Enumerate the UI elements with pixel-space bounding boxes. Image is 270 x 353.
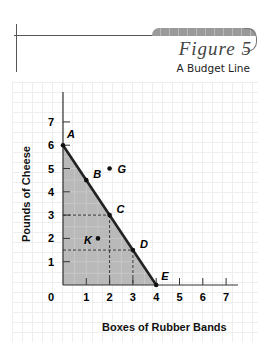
y-tick-label: 4 bbox=[48, 186, 55, 198]
point-A bbox=[61, 143, 66, 148]
y-axis-label: Pounds of Cheese bbox=[20, 146, 32, 242]
y-tick-label: 7 bbox=[48, 116, 54, 128]
point-label-A: A bbox=[66, 128, 75, 140]
point-E bbox=[154, 283, 159, 288]
x-tick-label: 4 bbox=[153, 291, 160, 303]
point-label-E: E bbox=[161, 270, 169, 282]
point-D bbox=[131, 248, 136, 253]
y-tick-label: 3 bbox=[48, 209, 54, 221]
x-axis-label: Boxes of Rubber Bands bbox=[102, 321, 227, 333]
point-label-C: C bbox=[117, 203, 126, 215]
x-tick-label: 1 bbox=[83, 291, 89, 303]
y-tick-label: 1 bbox=[48, 256, 54, 268]
point-label-G: G bbox=[118, 163, 127, 175]
y-tick-label: 6 bbox=[48, 139, 54, 151]
budget-line-chart: 123456701234567ABCDEGK bbox=[0, 0, 270, 353]
x-tick-label: 7 bbox=[223, 291, 229, 303]
y-tick-label: 5 bbox=[48, 163, 54, 175]
x-tick-label: 3 bbox=[130, 291, 136, 303]
x-tick-label: 5 bbox=[176, 291, 182, 303]
point-C bbox=[107, 213, 112, 218]
point-label-K: K bbox=[84, 234, 93, 246]
point-K bbox=[96, 236, 101, 241]
x-tick-label: 0 bbox=[48, 291, 54, 303]
y-tick-label: 2 bbox=[48, 232, 54, 244]
x-tick-label: 2 bbox=[107, 291, 113, 303]
x-tick-label: 6 bbox=[200, 291, 206, 303]
point-G bbox=[107, 166, 112, 171]
point-label-B: B bbox=[93, 168, 101, 180]
point-label-D: D bbox=[140, 238, 148, 250]
point-B bbox=[84, 178, 89, 183]
